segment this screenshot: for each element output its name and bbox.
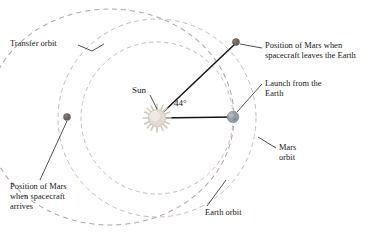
transfer-orbit-label: Transfer orbit [10,39,57,49]
mars-orbit-label: Mars orbit [279,143,296,163]
mars-at-arrival-label: Position of Mars when spacecraft arrives [10,182,67,213]
earth-orbit-leader [207,180,226,206]
mars-orbit-leader [258,137,276,148]
launch-leader [237,84,262,112]
sun-mars-line [157,43,236,118]
transfer-orbit-leader [78,44,104,51]
mars-at-arrival-icon [63,113,71,121]
mars-at-launch-label: Position of Mars when spacecraft leaves … [265,41,356,61]
launch-label: Launch from the Earth [265,79,322,99]
mars-at-arrival-leader [40,121,67,180]
earth-icon [227,111,239,123]
angle-label: 44° [174,98,187,108]
mars-at-launch-leader [240,44,262,48]
sun-label: Sun [132,85,146,95]
earth-orbit-label: Earth orbit [205,208,242,218]
figure-canvas: Transfer orbit Sun 44° Position of Mars … [0,0,386,235]
mars-at-launch-icon [232,38,240,46]
